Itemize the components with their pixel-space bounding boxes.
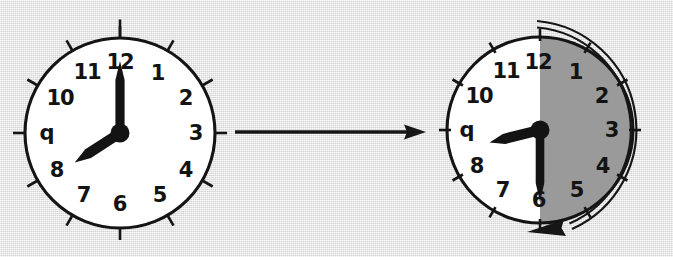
clock-left-numeral-2: 2 — [179, 86, 194, 110]
clock-left-numeral-1: 1 — [151, 61, 166, 85]
clock-right-numeral-10: 10 — [465, 84, 493, 108]
clock-left-numeral-11: 11 — [73, 60, 101, 84]
transition-arrow — [235, 125, 426, 140]
clock-right-numeral-12: 12 — [524, 50, 551, 74]
clock-right-numeral-5: 5 — [570, 178, 585, 202]
clock-right-numeral-1: 1 — [569, 60, 584, 84]
clock-right-numeral-3: 3 — [605, 118, 620, 142]
clock-left-numeral-7: 7 — [77, 183, 92, 207]
clock-left-numeral-6: 6 — [113, 192, 128, 216]
clock-left-numeral-8: 8 — [50, 158, 65, 182]
clock-illustration-svg: 12 1 2 3 4 5 6 7 8 q 10 11 — [0, 0, 673, 257]
clock-right-hub — [531, 121, 550, 140]
clock-right-numeral-9: q — [459, 118, 474, 142]
clock-left-numeral-4: 4 — [179, 158, 194, 182]
clock-right-numeral-2: 2 — [595, 84, 610, 108]
illustration-canvas: 12 1 2 3 4 5 6 7 8 q 10 11 — [0, 0, 673, 257]
clock-left-numeral-5: 5 — [153, 183, 168, 207]
clock-right-numeral-8: 8 — [470, 154, 485, 178]
clock-right-numeral-4: 4 — [596, 154, 611, 178]
transition-arrow-head — [404, 125, 426, 140]
clock-right-numeral-11: 11 — [492, 59, 520, 83]
clock-right-numeral-7: 7 — [496, 178, 511, 202]
clock-left-numeral-3: 3 — [189, 121, 204, 145]
clock-left-numeral-9: q — [39, 121, 54, 145]
clock-left-numeral-10: 10 — [46, 86, 74, 110]
clock-left-hub — [111, 124, 130, 143]
clock-left: 12 1 2 3 4 5 6 7 8 q 10 11 — [13, 20, 227, 241]
